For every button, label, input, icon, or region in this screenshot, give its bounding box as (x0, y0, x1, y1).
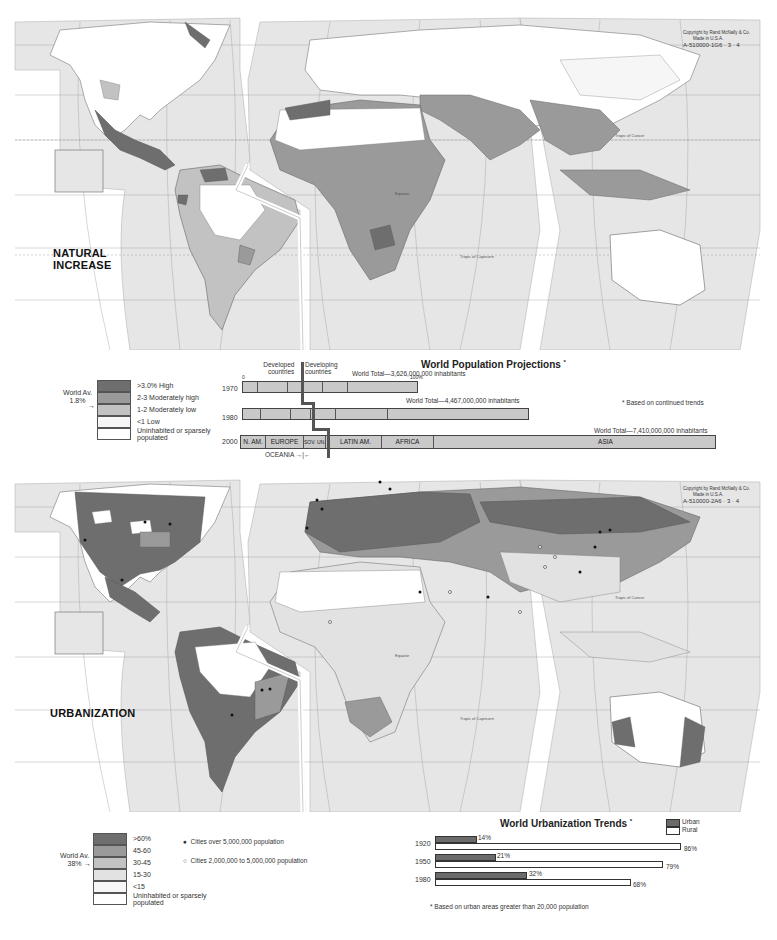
filled-dot-icon: ● (183, 838, 187, 845)
copyright-block-top: Copyright by Rand McNally & Co. Made in … (683, 30, 750, 48)
title-line-1: NATURAL (53, 247, 111, 259)
natural-increase-title: NATURAL INCREASE (53, 247, 111, 271)
year-label: 1980 (415, 876, 431, 883)
rural-label: Rural (682, 826, 698, 833)
legend-swatch-low (97, 416, 131, 428)
legend-swatch-under-15 (93, 881, 127, 893)
svg-text:Equator: Equator (395, 653, 410, 658)
asterisk: * (630, 818, 632, 824)
natural-increase-map-graphic: Tropic of Cancer Equator Tropic of Capri… (0, 0, 777, 350)
svg-text:Tropic of Capricorn: Tropic of Capricorn (460, 254, 494, 259)
city-large-label: Cities over 5,000,000 population (191, 838, 284, 845)
legend-label: 2-3 Moderately high (137, 394, 199, 402)
urban-bar-1980 (435, 872, 527, 879)
urban-pct: 21% (497, 852, 510, 859)
urban-swatch (666, 819, 680, 827)
developed-developing-divider (301, 362, 304, 404)
rural-pct: 79% (666, 863, 679, 870)
tick-label: 0 (242, 374, 245, 380)
developed-line-2: countries (263, 368, 294, 375)
svg-text:Tropic of Capricorn: Tropic of Capricorn (460, 716, 494, 721)
legend-label: 1-2 Moderately low (137, 406, 196, 414)
urban-pct: 14% (478, 834, 491, 841)
urbanization-title: URBANIZATION (50, 707, 135, 719)
bar-segment (261, 409, 291, 419)
legend-city-medium: ○ Cities 2,000,000 to 5,000,000 populati… (183, 857, 307, 864)
urbanization-map: Tropic of Cancer Equator Tropic of Capri… (0, 462, 777, 812)
urbanization-map-graphic: Tropic of Cancer Equator Tropic of Capri… (0, 462, 777, 812)
segment-latin-am: LATIN AM. (330, 436, 382, 448)
svg-text:Tropic of Cancer: Tropic of Cancer (615, 133, 645, 138)
population-projections-title: World Population Projections * (421, 359, 566, 370)
world-total-1980: World Total—4,467,000,000 inhabitants (406, 397, 520, 404)
copyright-block-bottom: Copyright by Rand McNally & Co. Made in … (683, 486, 750, 504)
oceania-label: OCEANIA →|← (265, 451, 310, 458)
map-code: A-510000-2A6 · 3 · 4 (683, 498, 750, 504)
svg-text:Equator: Equator (395, 191, 410, 196)
legend-swatch-moderately-high (97, 392, 131, 404)
arrow-icon: → (84, 860, 91, 867)
legend-label: <1 Low (137, 418, 160, 426)
urbanization-trends-title: World Urbanization Trends * (500, 818, 632, 829)
title-line-2: INCREASE (53, 259, 111, 271)
bar-segment (323, 382, 348, 392)
urbanization-note: * Based on urban areas greater than 20,0… (430, 903, 589, 910)
legend-label: >60% (133, 835, 151, 843)
legend-label: >3.0% High (137, 382, 173, 390)
bar-segment (243, 409, 261, 419)
year-label: 2000 (222, 438, 238, 445)
developed-developing-divider (327, 428, 330, 458)
city-medium-label: Cities 2,000,000 to 5,000,000 population (191, 857, 308, 864)
chart-title-text: World Population Projections (421, 359, 561, 370)
segment-europe: EUROPE (266, 436, 304, 448)
asterisk: * (564, 359, 566, 365)
rural-pct: 86% (684, 845, 697, 852)
natural-increase-map: Tropic of Cancer Equator Tropic of Capri… (0, 0, 777, 350)
legend-label: 15-30 (133, 871, 151, 879)
bar-segment (291, 409, 311, 419)
urban-bar-1950 (435, 854, 496, 861)
legend-label: 45-60 (133, 847, 151, 855)
open-dot-icon: ○ (183, 857, 187, 864)
developing-label: Developing countries (305, 361, 338, 375)
bar-segment (303, 382, 323, 392)
rural-pct: 68% (633, 881, 646, 888)
arrow-icon: → (88, 402, 95, 409)
rural-bar-1920 (435, 843, 681, 850)
legend-swatch-over-60 (93, 833, 127, 845)
world-total-1970: World Total—3,626,000,000 inhabitants (352, 370, 466, 377)
year-label: 1950 (415, 858, 431, 865)
segment-africa: AFRICA (382, 436, 434, 448)
legend-label: 30-45 (133, 859, 151, 867)
population-bar-2000: N. AM. EUROPE SOV. UN. LATIN AM. AFRICA … (240, 435, 716, 449)
bar-segment (243, 382, 258, 392)
tick-label: 100% (410, 374, 423, 380)
chart-title-text: World Urbanization Trends (500, 818, 627, 829)
urban-bar-1920 (435, 836, 477, 843)
developed-developing-divider (312, 402, 315, 430)
svg-text:Tropic of Cancer: Tropic of Cancer (615, 595, 645, 600)
population-bar-1980 (242, 408, 529, 420)
year-label: 1920 (415, 840, 431, 847)
legend-swatch-15-30 (93, 869, 127, 881)
segment-n-am: N. AM. (241, 436, 266, 448)
year-label: 1980 (222, 414, 238, 421)
bar-segment (258, 382, 288, 392)
world-avg-label: World Av. (52, 852, 97, 860)
legend-swatch-uninhabited (93, 893, 127, 905)
urban-label: Urban (682, 818, 700, 825)
legend-label: <15 (133, 883, 145, 891)
developing-line-2: countries (305, 368, 338, 375)
legend-city-large: ● Cities over 5,000,000 population (183, 838, 284, 845)
legend-swatch-30-45 (93, 857, 127, 869)
legend-swatch-high (97, 380, 131, 392)
legend-swatch-45-60 (93, 845, 127, 857)
world-total-2000: World Total—7,410,000,000 inhabitants (594, 427, 708, 434)
developed-label: Developed countries (263, 361, 294, 375)
urban-pct: 32% (529, 870, 542, 877)
developing-line-1: Developing (305, 361, 338, 368)
bar-segment (336, 409, 388, 419)
legend-swatch-uninhabited (97, 428, 131, 440)
developed-line-1: Developed (263, 361, 294, 368)
legend-swatch-moderately-low (97, 404, 131, 416)
